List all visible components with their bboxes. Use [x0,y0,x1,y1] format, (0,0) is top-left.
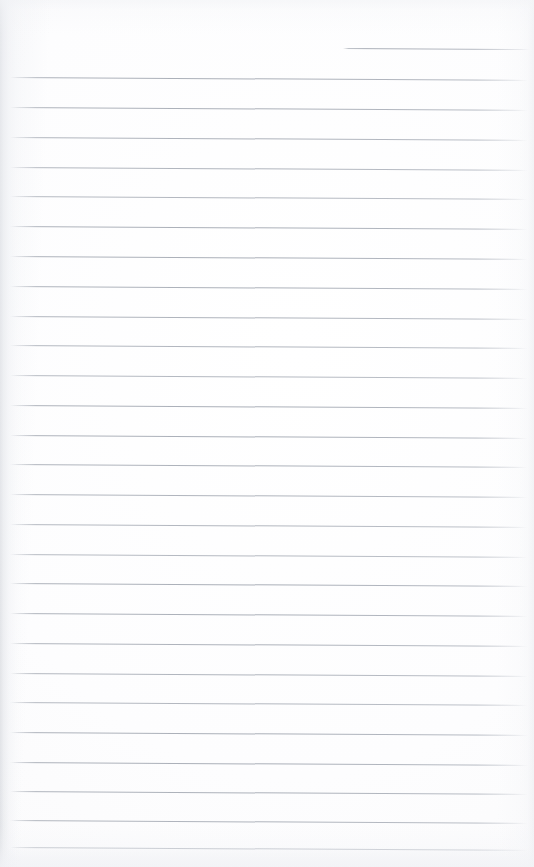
scanned-page: Blank ruled notebook page [0,0,534,867]
paper-surface [0,0,534,867]
